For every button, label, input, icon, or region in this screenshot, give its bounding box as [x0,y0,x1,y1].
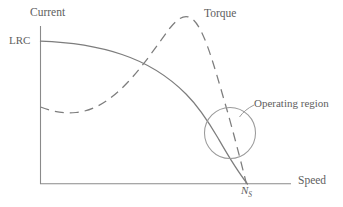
lrc-label: LRC [9,35,30,46]
operating-region-circle [205,108,256,159]
torque-curve [41,17,247,184]
x-axis-label: Speed [298,175,326,187]
figure-canvas: Current LRC Torque Operating region Spee… [0,0,343,207]
y-axis-label: Current [30,7,65,19]
torque-curve-label: Torque [204,8,236,20]
operating-region-label: Operating region [254,98,329,109]
operating-region-leader-line [240,105,255,117]
synchronous-speed-tick-label: NS [241,185,252,196]
synchronous-speed-subscript: S [248,190,252,199]
